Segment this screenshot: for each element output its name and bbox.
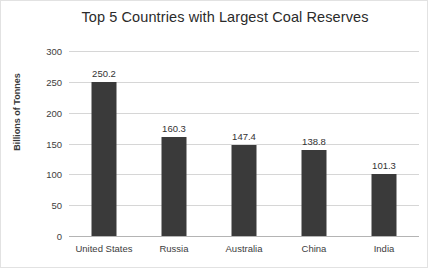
plot-area: 300250200150100500250.2United States160.… bbox=[69, 51, 419, 236]
x-axis-category-label: Australia bbox=[226, 243, 263, 254]
y-axis-tick-label: 150 bbox=[46, 138, 62, 149]
y-axis-tick-label: 50 bbox=[51, 200, 62, 211]
bar-value-label: 147.4 bbox=[232, 131, 256, 142]
x-axis-category-label: China bbox=[302, 243, 327, 254]
y-axis-tick-label: 100 bbox=[46, 169, 62, 180]
y-axis-tick-label: 250 bbox=[46, 76, 62, 87]
y-axis-tick-label: 300 bbox=[46, 46, 62, 57]
bar[interactable] bbox=[162, 137, 187, 236]
bar-group: 160.3Russia bbox=[139, 51, 209, 236]
bar[interactable] bbox=[92, 82, 117, 236]
bar-value-label: 160.3 bbox=[162, 123, 186, 134]
bar-group: 147.4Australia bbox=[209, 51, 279, 236]
x-axis-category-label: India bbox=[374, 243, 395, 254]
bar-group: 250.2United States bbox=[69, 51, 139, 236]
y-axis-title: Billions of Tonnes bbox=[12, 52, 22, 172]
bar-chart-figure: Top 5 Countries with Largest Coal Reserv… bbox=[0, 0, 428, 268]
y-axis-tick-label: 0 bbox=[57, 231, 62, 242]
x-axis-category-label: United States bbox=[75, 243, 132, 254]
bar-group: 138.8China bbox=[279, 51, 349, 236]
gridline: 0 bbox=[69, 236, 419, 237]
bar-group: 101.3India bbox=[349, 51, 419, 236]
bar[interactable] bbox=[232, 145, 257, 236]
bar[interactable] bbox=[372, 174, 397, 236]
x-axis-category-label: Russia bbox=[159, 243, 188, 254]
bar[interactable] bbox=[302, 150, 327, 236]
chart-title: Top 5 Countries with Largest Coal Reserv… bbox=[51, 9, 399, 25]
bar-value-label: 138.8 bbox=[302, 136, 326, 147]
bar-value-label: 101.3 bbox=[372, 160, 396, 171]
bar-value-label: 250.2 bbox=[92, 68, 116, 79]
y-axis-tick-label: 200 bbox=[46, 107, 62, 118]
